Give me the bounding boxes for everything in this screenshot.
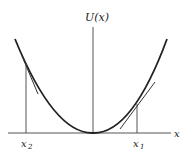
svg-text:1: 1 (140, 143, 144, 149)
svg-text:x: x (133, 138, 139, 149)
x-axis-label: x (174, 128, 180, 139)
potential-diagram: U(x) x x 2 x 1 (0, 0, 193, 149)
x2-tangent-line (22, 56, 38, 94)
potential-curve (15, 39, 167, 133)
x2-label: x 2 (21, 138, 33, 149)
x1-label: x 1 (133, 138, 144, 149)
svg-text:2: 2 (27, 143, 33, 149)
svg-text:x: x (21, 138, 27, 149)
y-axis-label: U(x) (85, 11, 109, 24)
